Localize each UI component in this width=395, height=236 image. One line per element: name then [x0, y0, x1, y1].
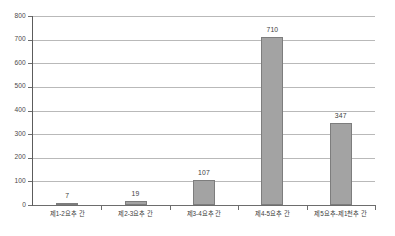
bar	[193, 180, 215, 205]
x-axis-category-tick	[170, 205, 171, 210]
y-axis-tick-mark	[28, 111, 32, 112]
y-axis-tick-mark	[28, 16, 32, 17]
y-axis-tick-label: 500	[0, 83, 26, 90]
y-axis-tick-label: 400	[0, 107, 26, 114]
y-axis-tick-label: 300	[0, 131, 26, 138]
bar-value-label: 710	[252, 27, 292, 34]
gridline	[33, 111, 375, 112]
gridline	[33, 87, 375, 88]
y-axis-tick-mark	[28, 134, 32, 135]
gridline	[33, 63, 375, 64]
y-axis-tick-mark	[28, 205, 32, 206]
gridline	[33, 16, 375, 17]
bar	[330, 123, 352, 205]
bar	[56, 203, 78, 206]
bar	[261, 37, 283, 205]
gridline	[33, 158, 375, 159]
x-axis-baseline	[33, 205, 375, 206]
gridline	[33, 40, 375, 41]
bar-chart: 8007006005004003002001000 719107710347 제…	[0, 0, 395, 236]
y-axis-tick-label: 200	[0, 154, 26, 161]
y-axis-tick-label: 700	[0, 36, 26, 43]
y-axis-tick-mark	[28, 181, 32, 182]
y-axis-tick-label: 0	[0, 202, 26, 209]
plot-area: 719107710347	[33, 16, 375, 205]
y-axis-tick-mark	[28, 87, 32, 88]
x-axis-category-tick	[238, 205, 239, 210]
x-axis-category-tick	[375, 205, 376, 210]
y-axis-tick-mark	[28, 158, 32, 159]
bar-value-label: 107	[184, 170, 224, 177]
y-axis-tick-label: 800	[0, 13, 26, 20]
x-axis-category-label: 제5요추-제1천추 간	[296, 211, 386, 218]
bar-value-label: 19	[116, 191, 156, 198]
y-axis-tick-label: 600	[0, 60, 26, 67]
gridline	[33, 134, 375, 135]
x-axis-category-tick	[307, 205, 308, 210]
bar	[125, 201, 147, 205]
bar-value-label: 7	[47, 193, 87, 200]
y-axis-tick-label: 100	[0, 178, 26, 185]
y-axis-tick-mark	[28, 40, 32, 41]
bar-value-label: 347	[321, 113, 361, 120]
x-axis-category-tick	[101, 205, 102, 210]
y-axis-tick-mark	[28, 63, 32, 64]
